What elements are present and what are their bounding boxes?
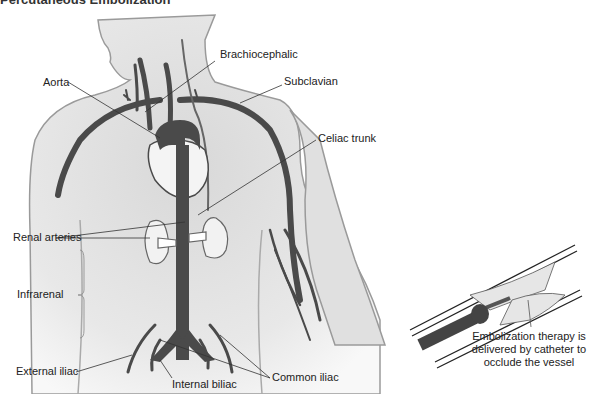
label-celiac-trunk: Celiac trunk <box>318 132 376 145</box>
label-brachiocephalic: Brachiocephalic <box>220 48 298 61</box>
caption-line-1: Embolization therapy is <box>464 330 594 343</box>
label-external-iliac: External iliac <box>16 365 78 378</box>
inset-caption: Embolization therapy is delivered by cat… <box>464 330 594 369</box>
label-aorta: Aorta <box>43 76 69 89</box>
label-common-iliac: Common iliac <box>272 371 339 384</box>
label-renal-arteries: Renal arteries <box>13 231 81 244</box>
label-internal-iliac: Internal biliac <box>172 378 237 391</box>
caption-line-2: delivered by catheter to <box>464 343 594 356</box>
label-infrarenal: Infrarenal <box>17 288 63 301</box>
caption-line-3: occlude the vessel <box>464 356 594 369</box>
label-subclavian: Subclavian <box>284 75 338 88</box>
